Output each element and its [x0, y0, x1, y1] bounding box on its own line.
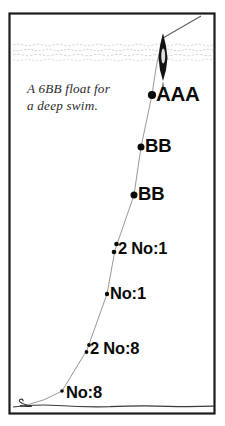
shot-label-2-no1: 2 No:1 [118, 240, 167, 257]
shot-dot-no1a [105, 292, 109, 296]
shot-dot-bb2 [131, 192, 138, 199]
shot-dot-no1b-lower [112, 250, 117, 255]
caption-line-2: a deep swim. [27, 97, 147, 114]
shot-label-bb-upper: BB [145, 137, 171, 156]
shot-dot-no8b-lower [85, 350, 89, 354]
shot-label-aaa: AAA [156, 84, 200, 105]
shot-label-bb-lower: BB [138, 185, 164, 204]
float-shotting-diagram: A 6BB float for a deep swim. AAA BB BB 2… [0, 0, 225, 426]
shot-dot-bb1 [138, 144, 145, 151]
caption: A 6BB float for a deep swim. [27, 80, 147, 114]
shot-dot-aaa [148, 91, 156, 99]
shot-label-2-no8: 2 No:8 [90, 340, 139, 357]
shot-label-no1: No:1 [110, 285, 146, 302]
shot-label-no8: No:8 [66, 384, 102, 401]
diagram-canvas [0, 0, 225, 426]
caption-line-1: A 6BB float for [27, 80, 147, 97]
shot-dot-no8a [60, 389, 64, 393]
